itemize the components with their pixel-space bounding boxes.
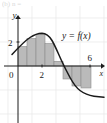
x-axis-arrow-icon xyxy=(101,63,105,69)
riemann-bars-negative xyxy=(63,66,91,88)
y-axis-label: y xyxy=(12,10,17,20)
riemann-sum-svg: y x 0 2 6 2 y = f(x) xyxy=(0,6,107,123)
riemann-bar xyxy=(18,47,27,67)
riemann-bar xyxy=(36,35,45,67)
riemann-bar xyxy=(45,44,54,67)
origin-label: 0 xyxy=(9,70,14,80)
riemann-bar xyxy=(81,66,91,88)
curve-label: y = f(x) xyxy=(61,31,91,42)
x-tick-label-6: 6 xyxy=(88,53,93,63)
riemann-bar xyxy=(27,39,36,67)
plot-area: y x 0 2 6 2 y = f(x) xyxy=(0,6,107,123)
riemann-sum-figure: (b) n = xyxy=(0,0,107,123)
x-tick-label-2: 2 xyxy=(40,70,45,80)
x-axis-label: x xyxy=(99,69,104,78)
y-tick-label-2: 2 xyxy=(8,38,13,48)
